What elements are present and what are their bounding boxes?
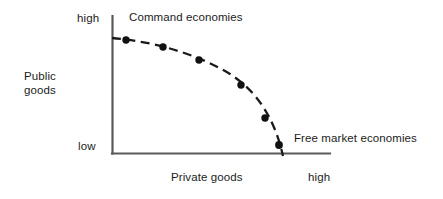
data-point	[261, 114, 268, 121]
data-point	[159, 43, 166, 50]
data-point	[275, 141, 283, 149]
x-axis-title: Private goods	[171, 171, 243, 184]
data-point	[195, 56, 202, 63]
annotation-command-economies: Command economies	[129, 11, 243, 24]
data-point	[122, 36, 129, 43]
ppf-curve	[112, 38, 283, 156]
chart-figure: high low Public goods Private goods high…	[0, 0, 443, 199]
y-axis-tick-label-low: low	[78, 140, 96, 153]
y-axis-tick-label-high: high	[77, 12, 99, 25]
annotation-free-market-economies: Free market economies	[294, 132, 417, 145]
x-axis-tick-label-high: high	[308, 171, 330, 184]
data-point-markers	[122, 36, 283, 149]
chart-plot-area	[0, 0, 443, 199]
data-point	[237, 81, 244, 88]
y-axis-title: Public goods	[24, 69, 76, 97]
